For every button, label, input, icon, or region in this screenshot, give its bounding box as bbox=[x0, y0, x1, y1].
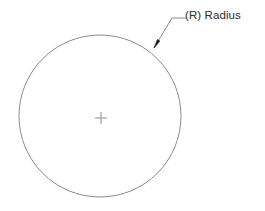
drawing-canvas: (R) Radius bbox=[0, 0, 265, 211]
radius-callout-label: (R) Radius bbox=[185, 8, 241, 22]
circle-outline bbox=[19, 35, 181, 197]
arrowhead-icon bbox=[154, 40, 160, 48]
technical-drawing bbox=[0, 0, 265, 211]
center-cross-icon bbox=[95, 112, 107, 124]
leader-line bbox=[154, 18, 186, 48]
